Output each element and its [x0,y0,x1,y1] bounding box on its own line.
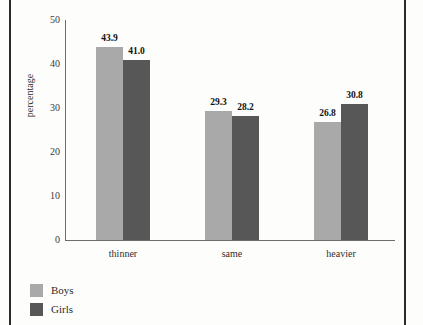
y-tick-text: 30 [40,103,60,113]
y-tick-text: 50 [40,15,60,25]
x-category-label-heavier: heavier [296,248,386,259]
bar-value-label-thinner-boys: 43.9 [90,34,129,44]
y-tick-text: 10 [40,191,60,201]
bar-same-boys [205,111,232,240]
figure-page: percentage 01020304050 43.941.029.328.22… [0,0,423,325]
bar-chart-plot: percentage 01020304050 43.941.029.328.22… [0,0,423,325]
girls-swatch-icon [30,303,43,316]
y-axis-line [65,20,66,240]
legend-label: Girls [51,304,73,315]
y-tick-label-40: 40 [40,59,60,69]
boys-swatch-icon [30,284,43,297]
y-tick-label-30: 30 [40,103,60,113]
bar-heavier-girls [341,104,368,240]
y-tick-label-10: 10 [40,191,60,201]
y-tick-label-20: 20 [40,147,60,157]
chart-legend: BoysGirls [30,281,74,319]
bar-value-label-thinner-girls: 41.0 [117,47,156,57]
y-axis-title: percentage [24,61,35,131]
bar-value-label-heavier-girls: 30.8 [335,91,374,101]
bar-thinner-girls [123,60,150,240]
bar-value-label-heavier-boys: 26.8 [308,109,347,119]
bar-thinner-boys [96,47,123,240]
bar-same-girls [232,116,259,240]
legend-label: Boys [51,285,74,296]
x-axis-line [65,240,395,241]
legend-item-girls[interactable]: Girls [30,300,74,319]
bar-heavier-boys [314,122,341,240]
x-category-label-same: same [187,248,277,259]
legend-item-boys[interactable]: Boys [30,281,74,300]
bar-value-label-same-girls: 28.2 [226,103,265,113]
y-tick-text: 20 [40,147,60,157]
y-tick-text: 40 [40,59,60,69]
y-tick-label-50: 50 [40,15,60,25]
y-tick-text: 0 [40,235,60,245]
x-category-label-thinner: thinner [78,248,168,259]
y-tick-label-0: 0 [40,235,60,245]
